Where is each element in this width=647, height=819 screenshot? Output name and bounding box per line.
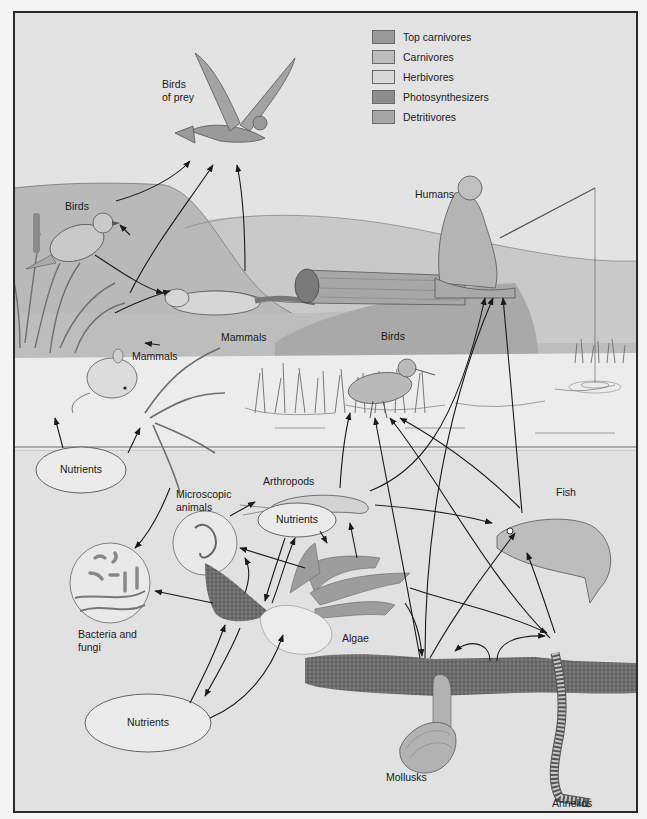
legend-label: Photosynthesizers	[403, 91, 489, 103]
label-birds-water: Birds	[381, 330, 405, 343]
legend-swatch	[372, 30, 395, 44]
nutrients-shore-label: Nutrients	[36, 463, 126, 475]
nutrients-bottom-label: Nutrients	[85, 716, 211, 728]
legend-label: Detritivores	[403, 111, 456, 123]
label-mollusks: Mollusks	[386, 771, 427, 784]
legend-label: Herbivores	[403, 71, 454, 83]
legend-item-top-carnivores: Top carnivores	[372, 27, 489, 47]
food-web-diagram: Top carnivores Carnivores Herbivores Pho…	[13, 11, 638, 813]
nutrients-midwater-label: Nutrients	[258, 513, 336, 525]
label-birds-of-prey: Birds of prey	[162, 78, 194, 104]
legend-swatch	[372, 70, 395, 84]
ecosystem-illustration	[15, 13, 636, 811]
legend-item-carnivores: Carnivores	[372, 47, 489, 67]
legend-label: Top carnivores	[403, 31, 471, 43]
label-mammals-mouse: Mammals	[132, 350, 178, 363]
legend-label: Carnivores	[403, 51, 454, 63]
cattail	[33, 213, 40, 253]
label-birds-land: Birds	[65, 200, 89, 213]
legend-item-herbivores: Herbivores	[372, 67, 489, 87]
legend-item-photosynthesizers: Photosynthesizers	[372, 87, 489, 107]
legend-swatch	[372, 110, 395, 124]
label-annelids: Annelids	[552, 797, 592, 810]
legend-swatch	[372, 50, 395, 64]
label-fish: Fish	[556, 486, 576, 499]
legend-item-detritivores: Detritivores	[372, 107, 489, 127]
label-microscopic-animals: Microscopic animals	[176, 488, 231, 514]
microscopic-animals-inset	[173, 511, 237, 575]
label-mammals-weasel: Mammals	[221, 331, 267, 344]
legend: Top carnivores Carnivores Herbivores Pho…	[372, 27, 489, 127]
label-algae: Algae	[342, 632, 369, 645]
label-bacteria-fungi: Bacteria and fungi	[78, 628, 137, 654]
label-humans: Humans	[415, 188, 454, 201]
legend-swatch	[372, 90, 395, 104]
label-arthropods: Arthropods	[263, 475, 314, 488]
